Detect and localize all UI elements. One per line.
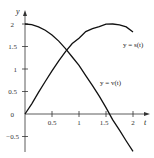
chart: 0.5 1 1.5 2 2 1.5 1 0.5 0 −0.5 y t y = s… (0, 0, 154, 158)
x-tick-label: 0.5 (48, 119, 57, 127)
v-curve-label: y = v(t) (100, 79, 122, 87)
y-tick-label: 1 (14, 66, 18, 74)
x-tick-label: 1 (77, 119, 81, 127)
y-tick-label: 2 (11, 21, 15, 29)
y-axis-arrow-icon (23, 10, 27, 16)
axes (25, 14, 146, 152)
x-axis-label: t (144, 118, 147, 127)
s-curve (25, 24, 133, 114)
y-tick-label: 0.5 (8, 88, 17, 96)
x-tick-label: 2 (131, 119, 135, 127)
y-tick-label: 1.5 (8, 43, 17, 51)
s-curve-label: y = s(t) (123, 41, 144, 49)
y-tick-label: 0 (11, 111, 15, 119)
y-tick-label: −0.5 (6, 133, 19, 141)
y-axis-label: y (15, 7, 20, 16)
x-axis-arrow-icon (144, 112, 150, 116)
x-tick-label: 1.5 (100, 119, 109, 127)
